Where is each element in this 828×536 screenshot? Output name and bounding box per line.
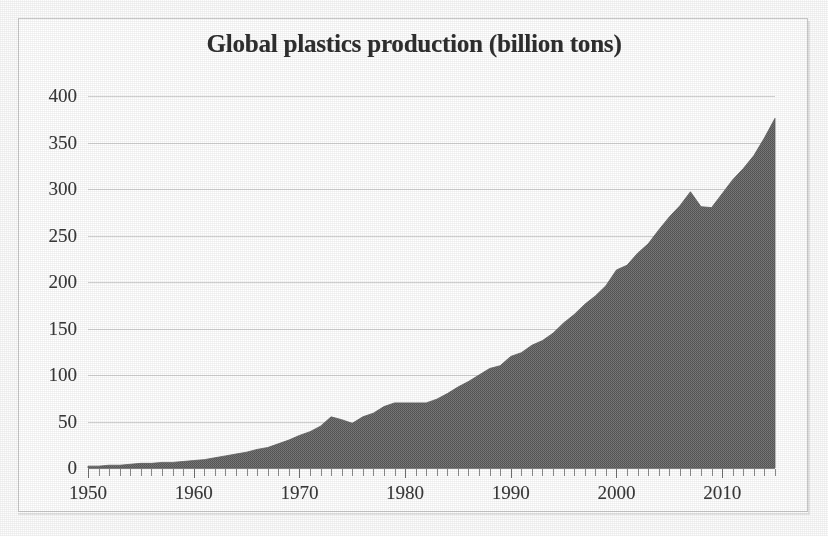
x-tick-1973 — [331, 469, 332, 476]
x-tick-1950 — [88, 469, 89, 478]
x-axis-ticks — [88, 469, 775, 479]
x-tick-label-1980: 1980 — [386, 482, 424, 504]
x-tick-1996 — [574, 469, 575, 476]
area-series — [88, 96, 775, 468]
x-tick-1969 — [289, 469, 290, 476]
x-tick-1963 — [225, 469, 226, 476]
x-tick-1965 — [247, 469, 248, 476]
x-tick-2001 — [627, 469, 628, 476]
x-tick-2008 — [701, 469, 702, 476]
x-tick-1977 — [373, 469, 374, 476]
chart-title: Global plastics production (billion tons… — [0, 30, 828, 58]
x-tick-1956 — [151, 469, 152, 476]
y-tick-label-100: 100 — [49, 364, 78, 386]
x-tick-1994 — [553, 469, 554, 476]
x-tick-1951 — [99, 469, 100, 476]
x-tick-2010 — [722, 469, 723, 478]
x-tick-1961 — [204, 469, 205, 476]
x-tick-2013 — [754, 469, 755, 476]
x-tick-label-1950: 1950 — [69, 482, 107, 504]
x-tick-label-1970: 1970 — [280, 482, 318, 504]
x-tick-1990 — [511, 469, 512, 478]
x-tick-1968 — [278, 469, 279, 476]
x-tick-1981 — [416, 469, 417, 476]
y-tick-label-400: 400 — [49, 85, 78, 107]
x-tick-1955 — [141, 469, 142, 476]
x-tick-1995 — [564, 469, 565, 476]
x-tick-2014 — [764, 469, 765, 476]
x-tick-2012 — [743, 469, 744, 476]
x-tick-2000 — [616, 469, 617, 478]
x-axis-labels: 1950196019701980199020002010 — [88, 482, 775, 512]
x-tick-1979 — [395, 469, 396, 476]
x-tick-1998 — [595, 469, 596, 476]
y-tick-label-50: 50 — [58, 410, 77, 432]
y-tick-label-250: 250 — [49, 224, 78, 246]
x-tick-label-1960: 1960 — [175, 482, 213, 504]
x-tick-1975 — [352, 469, 353, 476]
x-tick-1997 — [585, 469, 586, 476]
x-tick-1993 — [542, 469, 543, 476]
chart-screenshot: Global plastics production (billion tons… — [0, 0, 828, 536]
x-tick-2015 — [775, 469, 776, 476]
x-tick-2003 — [648, 469, 649, 476]
x-tick-label-1990: 1990 — [492, 482, 530, 504]
x-tick-1984 — [447, 469, 448, 476]
x-tick-1976 — [363, 469, 364, 476]
x-tick-1999 — [606, 469, 607, 476]
x-tick-2006 — [680, 469, 681, 476]
x-tick-1985 — [458, 469, 459, 476]
x-tick-1986 — [468, 469, 469, 476]
x-tick-1972 — [321, 469, 322, 476]
x-tick-1953 — [120, 469, 121, 476]
x-tick-label-2010: 2010 — [703, 482, 741, 504]
x-tick-1974 — [342, 469, 343, 476]
x-tick-2011 — [733, 469, 734, 476]
x-tick-1964 — [236, 469, 237, 476]
x-tick-1957 — [162, 469, 163, 476]
x-tick-2004 — [659, 469, 660, 476]
x-tick-2005 — [669, 469, 670, 476]
x-tick-1954 — [130, 469, 131, 476]
x-tick-1962 — [215, 469, 216, 476]
x-tick-1980 — [405, 469, 406, 478]
x-tick-label-2000: 2000 — [597, 482, 635, 504]
x-tick-1952 — [109, 469, 110, 476]
x-tick-1988 — [490, 469, 491, 476]
y-tick-label-200: 200 — [49, 271, 78, 293]
x-tick-1992 — [532, 469, 533, 476]
y-tick-label-350: 350 — [49, 131, 78, 153]
y-tick-label-150: 150 — [49, 317, 78, 339]
x-tick-2007 — [690, 469, 691, 476]
x-tick-1967 — [268, 469, 269, 476]
plot-area: 050100150200250300350400 — [88, 96, 775, 468]
x-tick-2009 — [712, 469, 713, 476]
x-tick-1971 — [310, 469, 311, 476]
x-tick-1991 — [521, 469, 522, 476]
x-tick-2002 — [638, 469, 639, 476]
x-tick-1970 — [299, 469, 300, 478]
x-tick-1982 — [426, 469, 427, 476]
x-tick-1960 — [194, 469, 195, 478]
y-tick-label-300: 300 — [49, 178, 78, 200]
x-tick-1978 — [384, 469, 385, 476]
x-tick-1983 — [437, 469, 438, 476]
x-tick-1958 — [173, 469, 174, 476]
x-tick-1987 — [479, 469, 480, 476]
y-tick-label-0: 0 — [68, 457, 78, 479]
x-tick-1959 — [183, 469, 184, 476]
x-tick-1989 — [500, 469, 501, 476]
x-tick-1966 — [257, 469, 258, 476]
